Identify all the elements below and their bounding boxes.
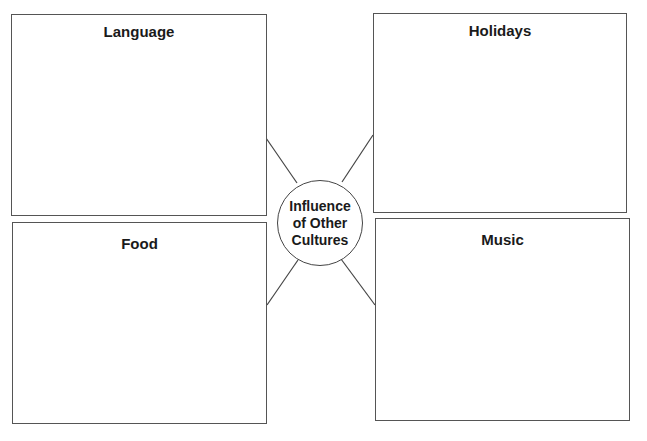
connector-holidays	[342, 135, 373, 182]
language-box: Language	[11, 14, 267, 216]
center-label-line: Influence	[289, 198, 350, 215]
food-box: Food	[12, 222, 267, 424]
holidays-box: Holidays	[373, 13, 627, 213]
center-circle: Influence of Other Cultures	[277, 180, 363, 266]
music-box: Music	[375, 218, 630, 421]
connector-music	[341, 259, 375, 305]
food-box-title: Food	[13, 235, 266, 252]
connector-food	[267, 260, 298, 305]
center-label: Influence of Other Cultures	[289, 198, 350, 249]
connector-language	[266, 138, 297, 183]
holidays-box-title: Holidays	[374, 22, 626, 39]
center-label-line: Cultures	[289, 232, 350, 249]
language-box-title: Language	[12, 23, 266, 40]
center-label-line: of Other	[289, 215, 350, 232]
music-box-title: Music	[376, 231, 629, 248]
